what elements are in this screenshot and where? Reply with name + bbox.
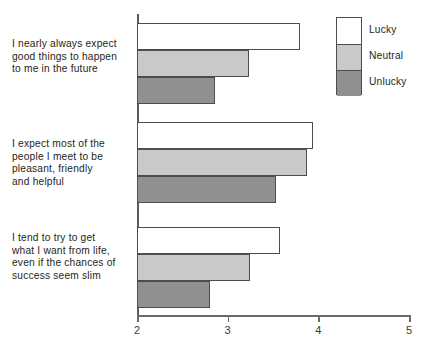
x-tick-label-4: 4 bbox=[306, 324, 330, 336]
bar-neutral-group-1 bbox=[137, 149, 307, 176]
bar-lucky-group-1 bbox=[137, 122, 313, 149]
legend-label-neutral: Neutral bbox=[369, 50, 403, 61]
category-label-2-line-3: success seem slim bbox=[12, 270, 132, 283]
x-tick-2 bbox=[137, 315, 139, 322]
bar-chart: I nearly always expect good things to ha… bbox=[0, 0, 430, 353]
legend-label-unlucky: Unlucky bbox=[369, 76, 407, 87]
category-label-2-line-2: even if the chances of bbox=[12, 257, 132, 270]
x-tick-4 bbox=[318, 315, 320, 322]
bar-lucky-group-0 bbox=[137, 23, 300, 50]
category-label-1: I expect most of the people I meet to be… bbox=[12, 138, 132, 188]
x-tick-5 bbox=[409, 315, 411, 322]
x-tick-label-3: 3 bbox=[216, 324, 240, 336]
category-label-1-line-0: I expect most of the bbox=[12, 138, 132, 151]
legend-swatch-lucky bbox=[337, 18, 361, 44]
category-label-0: I nearly always expect good things to ha… bbox=[12, 38, 132, 76]
x-tick-label-2: 2 bbox=[125, 324, 149, 336]
category-label-2-line-0: I tend to try to get bbox=[12, 232, 132, 245]
legend-swatch-neutral bbox=[337, 44, 361, 70]
category-label-2: I tend to try to get what I want from li… bbox=[12, 232, 132, 282]
category-label-1-line-1: people I meet to be bbox=[12, 151, 132, 164]
category-label-1-line-3: and helpful bbox=[12, 176, 132, 189]
bar-neutral-group-2 bbox=[137, 254, 250, 281]
x-axis-line bbox=[137, 315, 409, 317]
bar-unlucky-group-2 bbox=[137, 281, 210, 308]
category-label-0-line-2: to me in the future bbox=[12, 63, 132, 76]
category-label-2-line-1: what I want from life, bbox=[12, 245, 132, 258]
bar-unlucky-group-0 bbox=[137, 77, 215, 104]
category-label-0-line-0: I nearly always expect bbox=[12, 38, 132, 51]
bar-lucky-group-2 bbox=[137, 227, 280, 254]
x-tick-3 bbox=[228, 315, 230, 322]
bar-neutral-group-0 bbox=[137, 50, 249, 77]
x-tick-label-5: 5 bbox=[397, 324, 421, 336]
legend-swatch-unlucky bbox=[337, 70, 361, 96]
legend bbox=[336, 17, 362, 95]
legend-label-lucky: Lucky bbox=[369, 24, 397, 35]
category-label-1-line-2: pleasant, friendly bbox=[12, 163, 132, 176]
category-label-0-line-1: good things to happen bbox=[12, 51, 132, 64]
bar-unlucky-group-1 bbox=[137, 176, 276, 203]
